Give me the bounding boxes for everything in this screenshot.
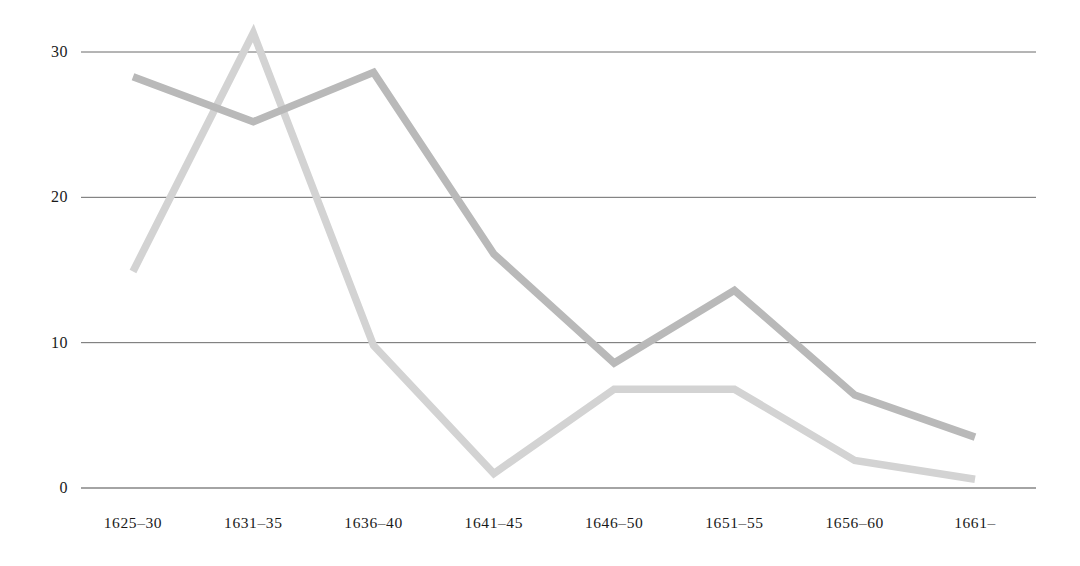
y-tick-label: 0 xyxy=(20,479,68,497)
x-tick-label: 1646–50 xyxy=(585,514,643,532)
x-tick-label: 1625–30 xyxy=(104,514,162,532)
series-line-series-light xyxy=(133,33,975,479)
gridlines xyxy=(81,52,1036,488)
line-chart-plot xyxy=(0,0,1080,566)
data-series-group xyxy=(133,33,975,479)
y-tick-label: 10 xyxy=(20,334,68,352)
series-line-series-dark xyxy=(133,72,975,437)
x-tick-label: 1656–60 xyxy=(825,514,883,532)
x-tick-label: 1636–40 xyxy=(344,514,402,532)
x-tick-label: 1651–55 xyxy=(705,514,763,532)
y-tick-label: 30 xyxy=(20,43,68,61)
x-tick-label: 1641–45 xyxy=(465,514,523,532)
x-tick-label: 1661– xyxy=(954,514,996,532)
y-tick-label: 20 xyxy=(20,188,68,206)
chart-container: 0102030 1625–301631–351636–401641–451646… xyxy=(0,0,1080,566)
x-tick-label: 1631–35 xyxy=(224,514,282,532)
